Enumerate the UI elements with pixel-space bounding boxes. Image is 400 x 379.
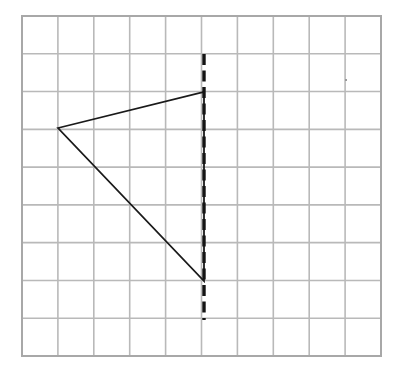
triangle — [58, 92, 204, 281]
grid-figure-canvas — [0, 0, 400, 379]
coordinate-grid — [22, 16, 381, 356]
stray-dot — [345, 79, 347, 81]
figure-root: Triangle and vertical line of reflection… — [0, 0, 400, 379]
